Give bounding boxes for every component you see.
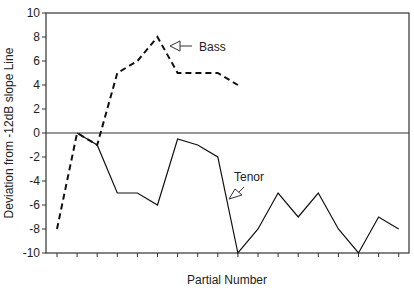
tenor-arrow-tail <box>239 187 244 192</box>
y-tick-label: -2 <box>29 150 40 164</box>
y-tick-label: -4 <box>29 174 40 188</box>
x-axis-title: Partial Number <box>187 273 267 287</box>
y-axis-title: Deviation from -12dB slope Line <box>2 47 16 218</box>
y-tick-label: 8 <box>33 30 40 44</box>
y-tick-label: -6 <box>29 198 40 212</box>
y-tick-label: -8 <box>29 222 40 236</box>
y-tick-label: 6 <box>33 54 40 68</box>
bass-arrow-icon <box>170 41 180 51</box>
y-tick-label: 0 <box>33 126 40 140</box>
x-axis <box>57 253 399 257</box>
tenor-label: Tenor <box>234 170 264 184</box>
y-tick-label: 10 <box>27 6 41 20</box>
y-tick-label: 2 <box>33 102 40 116</box>
y-tick-label: 4 <box>33 78 40 92</box>
annotations: BassTenor <box>170 40 264 199</box>
y-tick-label: -10 <box>23 246 41 260</box>
bass-label: Bass <box>199 40 226 54</box>
line-chart: 1086420-2-4-6-8-10 BassTenor Partial Num… <box>0 0 414 290</box>
series-lines <box>57 37 399 253</box>
y-axis: 1086420-2-4-6-8-10 <box>23 6 46 260</box>
